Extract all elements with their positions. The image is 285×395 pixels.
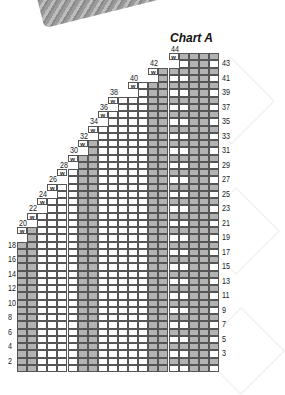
chart-cell bbox=[209, 314, 219, 321]
chart-cell bbox=[199, 140, 209, 147]
chart-cell bbox=[118, 133, 128, 140]
chart-cell bbox=[98, 263, 108, 270]
chart-cell bbox=[128, 118, 138, 125]
chart-cell bbox=[37, 263, 47, 270]
chart-cell bbox=[108, 111, 118, 118]
chart-cell bbox=[88, 234, 98, 241]
chart-cell bbox=[189, 198, 199, 205]
chart-cell bbox=[88, 336, 98, 343]
chart-cell bbox=[47, 234, 57, 241]
chart-cell bbox=[148, 82, 158, 89]
chart-cell bbox=[98, 140, 108, 147]
row-number-left: 14 bbox=[8, 269, 16, 279]
chart-cell bbox=[199, 205, 209, 212]
chart-cell bbox=[209, 205, 219, 212]
chart-cell bbox=[158, 292, 168, 299]
chart-cell bbox=[47, 256, 57, 263]
chart-cell bbox=[199, 271, 209, 278]
chart-cell bbox=[138, 198, 148, 205]
row-number-right: 5 bbox=[222, 334, 226, 344]
chart-cell bbox=[98, 162, 108, 169]
chart-cell bbox=[179, 75, 189, 82]
chart-cell bbox=[57, 271, 67, 278]
chart-cell bbox=[138, 365, 148, 372]
chart-cell bbox=[209, 53, 219, 60]
chart-cell bbox=[169, 205, 179, 212]
chart-cell bbox=[47, 307, 57, 314]
chart-cell bbox=[199, 213, 209, 220]
chart-cell bbox=[199, 307, 209, 314]
chart-cell bbox=[148, 133, 158, 140]
chart-cell bbox=[158, 104, 168, 111]
chart-cell bbox=[209, 365, 219, 372]
chart-cell bbox=[78, 271, 88, 278]
chart-cell bbox=[169, 97, 179, 104]
chart-cell bbox=[128, 336, 138, 343]
chart-cell bbox=[47, 358, 57, 365]
chart-cell bbox=[148, 162, 158, 169]
chart-cell bbox=[47, 205, 57, 212]
chart-cell bbox=[179, 82, 189, 89]
chart-cell bbox=[209, 307, 219, 314]
chart-cell bbox=[57, 278, 67, 285]
chart-cell bbox=[138, 292, 148, 299]
chart-cell bbox=[209, 321, 219, 328]
chart-cell bbox=[118, 329, 128, 336]
chart-cell bbox=[169, 329, 179, 336]
chart-cell bbox=[128, 191, 138, 198]
chart-cell bbox=[199, 314, 209, 321]
chart-cell bbox=[158, 285, 168, 292]
chart-cell bbox=[98, 321, 108, 328]
chart-cell bbox=[88, 242, 98, 249]
chart-cell bbox=[17, 300, 27, 307]
chart-cell bbox=[118, 307, 128, 314]
chart-cell bbox=[88, 140, 98, 147]
chart-cell bbox=[138, 227, 148, 234]
chart-cell bbox=[128, 278, 138, 285]
wrap-stitch-symbol: w bbox=[47, 184, 57, 191]
chart-cell bbox=[128, 220, 138, 227]
chart-cell bbox=[209, 184, 219, 191]
chart-cell bbox=[68, 205, 78, 212]
chart-cell bbox=[57, 213, 67, 220]
chart-cell bbox=[27, 242, 37, 249]
row-number-right: 23 bbox=[222, 203, 230, 213]
chart-cell bbox=[189, 307, 199, 314]
chart-cell bbox=[128, 205, 138, 212]
chart-cell bbox=[189, 176, 199, 183]
row-number-right: 31 bbox=[222, 145, 230, 155]
chart-cell bbox=[148, 220, 158, 227]
chart-cell bbox=[179, 278, 189, 285]
chart-cell bbox=[68, 358, 78, 365]
chart-cell bbox=[179, 350, 189, 357]
chart-cell bbox=[88, 220, 98, 227]
chart-cell bbox=[158, 155, 168, 162]
chart-cell bbox=[209, 147, 219, 154]
chart-cell bbox=[57, 234, 67, 241]
chart-cell bbox=[118, 184, 128, 191]
chart-cell bbox=[189, 162, 199, 169]
chart-cell bbox=[68, 336, 78, 343]
chart-cell bbox=[209, 126, 219, 133]
chart-cell bbox=[78, 227, 88, 234]
chart-cell bbox=[148, 365, 158, 372]
chart-cell bbox=[108, 321, 118, 328]
chart-cell bbox=[209, 140, 219, 147]
wrap-stitch-symbol: w bbox=[88, 126, 98, 133]
chart-cell bbox=[169, 111, 179, 118]
chart-cell bbox=[108, 329, 118, 336]
chart-cell bbox=[169, 191, 179, 198]
chart-cell bbox=[47, 278, 57, 285]
row-number-right: 3 bbox=[222, 348, 226, 358]
chart-cell bbox=[68, 292, 78, 299]
chart-cell bbox=[88, 271, 98, 278]
chart-cell bbox=[128, 162, 138, 169]
chart-cell bbox=[199, 249, 209, 256]
chart-cell bbox=[199, 227, 209, 234]
chart-cell bbox=[128, 271, 138, 278]
chart-cell bbox=[138, 343, 148, 350]
row-number-right: 19 bbox=[222, 232, 230, 242]
chart-cell bbox=[158, 278, 168, 285]
chart-cell bbox=[68, 314, 78, 321]
